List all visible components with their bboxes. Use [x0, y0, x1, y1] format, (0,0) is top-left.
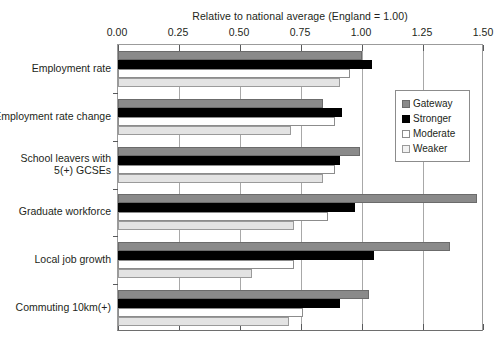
gridline [362, 45, 363, 330]
legend-swatch-icon [402, 115, 410, 123]
category-label-line: 5(+) GCSEs [21, 164, 111, 176]
legend-item-gateway[interactable]: Gateway [402, 96, 465, 111]
category-label-line: Employment rate change [0, 110, 111, 122]
horizontal-bar-chart: Relative to national average (England = … [0, 0, 503, 346]
category-label-line: School leavers with [21, 152, 111, 164]
axis-tick [362, 45, 363, 51]
legend-label: Moderate [413, 128, 455, 139]
bar-weaker [118, 317, 289, 326]
axis-tick [301, 324, 302, 330]
bar-stronger [118, 156, 340, 165]
legend-swatch-icon [402, 130, 410, 138]
bar-moderate [118, 165, 335, 174]
bar-weaker [118, 174, 323, 183]
x-tick-label: 0.50 [229, 26, 249, 38]
x-tick-label: 1.00 [351, 26, 371, 38]
bar-weaker [118, 78, 340, 87]
category-label-line: Local job growth [35, 253, 111, 265]
legend-swatch-icon [402, 145, 410, 153]
axis-tick [483, 324, 484, 330]
bar-gateway [118, 99, 323, 108]
category-tick [113, 236, 118, 237]
axis-tick [423, 324, 424, 330]
category-tick [113, 141, 118, 142]
bar-stronger [118, 203, 355, 212]
category-label-line: Employment rate [32, 62, 111, 74]
bar-stronger [118, 60, 372, 69]
bar-moderate [118, 308, 303, 317]
bar-weaker [118, 221, 294, 230]
x-tick-label: 0.00 [107, 26, 127, 38]
x-tick-label: 0.25 [168, 26, 188, 38]
category-tick [113, 189, 118, 190]
bar-moderate [118, 69, 350, 78]
bar-stronger [118, 108, 342, 117]
category-label: School leavers with5(+) GCSEs [21, 152, 111, 176]
bar-weaker [118, 126, 291, 135]
legend-label: Stronger [413, 113, 451, 124]
bar-gateway [118, 147, 360, 156]
axis-tick [423, 45, 424, 51]
bar-stronger [118, 299, 340, 308]
axis-tick [362, 324, 363, 330]
category-tick [113, 93, 118, 94]
category-label: Graduate workforce [19, 205, 111, 217]
bar-moderate [118, 212, 328, 221]
legend-item-weaker[interactable]: Weaker [402, 141, 465, 156]
bar-moderate [118, 117, 335, 126]
category-label-line: Commuting 10km(+) [16, 301, 111, 313]
x-tick-label: 0.75 [290, 26, 310, 38]
bar-gateway [118, 290, 369, 299]
gridline [240, 45, 241, 330]
category-label: Commuting 10km(+) [16, 301, 111, 313]
legend-swatch-icon [402, 100, 410, 108]
axis-title: Relative to national average (England = … [117, 10, 483, 22]
legend-label: Gateway [413, 98, 452, 109]
bar-gateway [118, 194, 477, 203]
gridline [179, 45, 180, 330]
bar-gateway [118, 51, 362, 60]
chart-legend: GatewayStrongerModerateWeaker [395, 90, 470, 162]
legend-item-stronger[interactable]: Stronger [402, 111, 465, 126]
plot-area [117, 44, 483, 331]
category-label: Employment rate change [0, 110, 111, 122]
legend-label: Weaker [413, 143, 447, 154]
category-label: Employment rate [32, 62, 111, 74]
x-tick-label: 1.25 [412, 26, 432, 38]
gridline [423, 45, 424, 330]
bar-moderate [118, 260, 294, 269]
legend-item-moderate[interactable]: Moderate [402, 126, 465, 141]
x-axis-tick-labels: 0.000.250.500.751.001.251.50 [0, 26, 503, 39]
bar-weaker [118, 269, 252, 278]
axis-tick [483, 45, 484, 51]
category-tick [113, 284, 118, 285]
category-label: Local job growth [35, 253, 111, 265]
bar-stronger [118, 251, 374, 260]
x-tick-label: 1.50 [473, 26, 493, 38]
category-label-line: Graduate workforce [19, 205, 111, 217]
gridline [301, 45, 302, 330]
bar-gateway [118, 242, 450, 251]
